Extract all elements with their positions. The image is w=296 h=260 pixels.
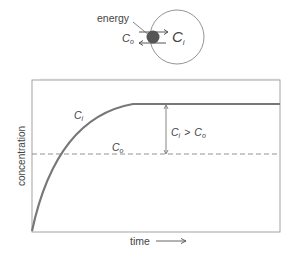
outside-concentration-label: Co bbox=[122, 32, 134, 45]
y-axis-label: concentration bbox=[16, 126, 27, 186]
concentration-chart: Ci Co Ci>Co concentration time bbox=[16, 80, 280, 247]
diagram-canvas: energy Co Ci Ci Co Ci>Co concentration t… bbox=[0, 0, 296, 260]
transport-diagram: energy Co Ci bbox=[97, 10, 204, 64]
energy-pointer bbox=[133, 22, 150, 36]
inside-concentration-label: Ci bbox=[172, 28, 185, 47]
gap-annotation: Ci>Co bbox=[171, 126, 206, 139]
ci-curve bbox=[32, 104, 280, 231]
energy-label: energy bbox=[97, 12, 130, 24]
ci-curve-label: Ci bbox=[74, 109, 84, 122]
co-line-label: Co bbox=[112, 141, 124, 154]
plot-frame bbox=[32, 80, 280, 232]
x-axis-label: time bbox=[130, 235, 150, 247]
